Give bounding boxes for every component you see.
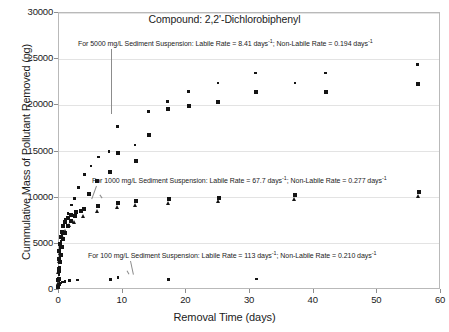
- chart-figure: Compound: 2,2'-Dichlorobiphenyl For 5000…: [0, 0, 449, 332]
- data-point: [73, 197, 76, 200]
- data-point: [73, 214, 77, 218]
- data-point: [416, 63, 419, 66]
- data-point: [166, 107, 170, 111]
- data-point: [68, 279, 71, 282]
- data-point: [116, 125, 119, 128]
- data-point: [416, 82, 420, 86]
- data-point: [67, 223, 71, 227]
- data-point: [61, 224, 65, 228]
- data-point: [83, 173, 86, 176]
- data-point: [61, 236, 65, 240]
- data-point: [166, 201, 170, 205]
- data-point: [57, 259, 61, 263]
- data-point: [76, 279, 79, 282]
- data-point: [134, 159, 138, 163]
- data-point: [74, 210, 78, 214]
- data-point: [167, 278, 170, 281]
- data-point: [292, 197, 296, 201]
- data-point: [216, 100, 220, 104]
- data-point: [95, 179, 99, 183]
- data-point: [72, 220, 76, 224]
- x-axis-label: Removal Time (days): [0, 311, 449, 323]
- data-point: [254, 72, 257, 75]
- data-point: [116, 151, 120, 155]
- data-point: [147, 110, 150, 113]
- data-point: [133, 203, 137, 207]
- data-point: [108, 170, 112, 174]
- data-point: [134, 144, 137, 147]
- data-point: [294, 82, 297, 85]
- data-point: [77, 186, 80, 189]
- data-point: [95, 209, 99, 213]
- data-point: [56, 270, 60, 274]
- data-point: [63, 229, 67, 233]
- data-point: [147, 133, 151, 137]
- data-point: [187, 104, 191, 108]
- data-point: [416, 194, 420, 198]
- data-point: [187, 90, 190, 93]
- data-point: [90, 165, 93, 168]
- data-point: [255, 278, 258, 281]
- data-point: [166, 100, 169, 103]
- data-point: [109, 278, 112, 281]
- data-point: [97, 156, 100, 159]
- data-point: [69, 213, 73, 217]
- data-point: [70, 204, 73, 207]
- data-point: [216, 199, 220, 203]
- data-point: [324, 72, 327, 75]
- data-point: [117, 276, 120, 279]
- data-point: [64, 280, 67, 283]
- data-point: [81, 214, 85, 218]
- data-point: [108, 150, 111, 153]
- data-point: [59, 244, 63, 248]
- data-point: [254, 90, 258, 94]
- y-axis-label: Cummulative Mass of Pollutant Removed (n…: [20, 12, 32, 292]
- data-point: [87, 192, 91, 196]
- data-point: [324, 90, 328, 94]
- data-point: [58, 251, 62, 255]
- data-points-layer: [0, 0, 449, 332]
- data-point: [96, 204, 100, 208]
- data-point: [217, 82, 220, 85]
- data-point: [115, 205, 119, 209]
- data-point: [82, 207, 86, 211]
